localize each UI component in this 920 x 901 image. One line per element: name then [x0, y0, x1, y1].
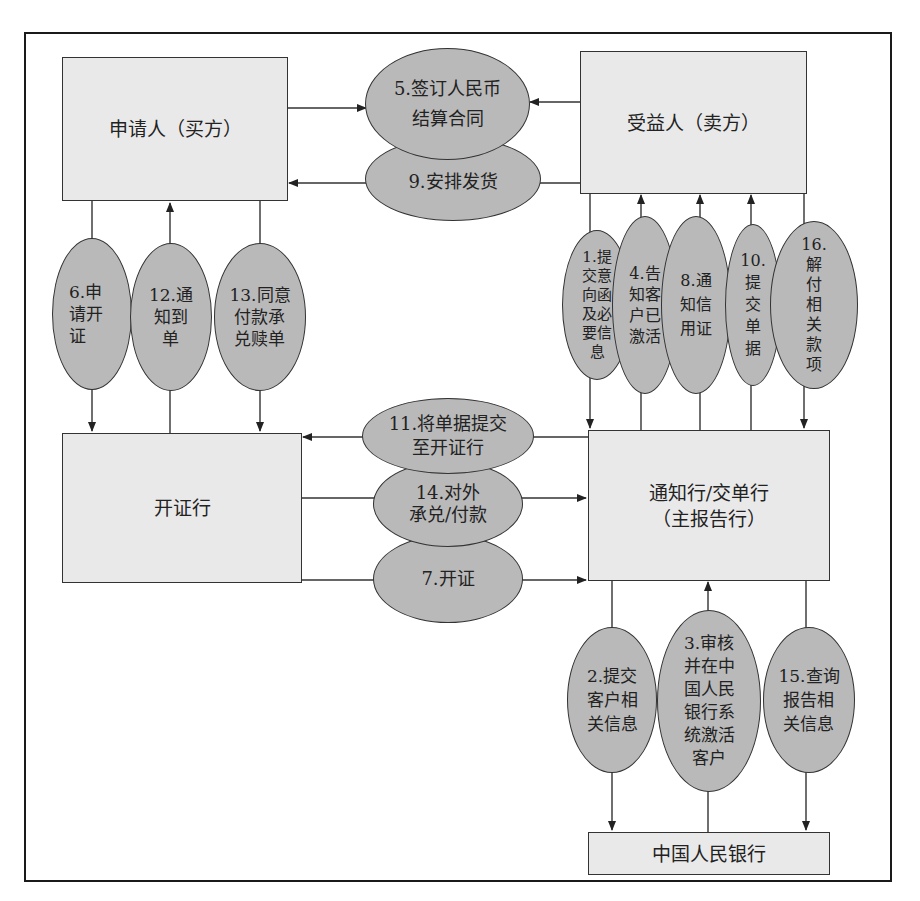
- advising-bank-box: 通知行/交单行 （主报告行）: [588, 430, 830, 581]
- step-12-label: 12.通 知到 单: [149, 284, 193, 350]
- step-2-label: 2.提交 客户相 关信息: [587, 664, 638, 736]
- applicant-label: 申请人（买方）: [109, 116, 242, 142]
- pboc-label: 中国人民银行: [652, 841, 766, 867]
- step-8-label: 8.通 知信 用证: [680, 269, 712, 341]
- step-7-label: 7.开证: [421, 568, 474, 590]
- step-16-label: 16. 解 付 相 关 款 项: [801, 235, 826, 375]
- step-5-label: 5.签订人民币 结算合同: [394, 74, 501, 134]
- step-1-label: 1.提 交意 向函 及必 要信 息: [582, 248, 612, 362]
- step-3-ellipse: 3.审核 并在中 国人民 银行系 统激活 客户: [657, 610, 761, 792]
- step-11-ellipse: 11.将单据提交 至开证行: [362, 398, 534, 474]
- advising-bank-label: 通知行/交单行 （主报告行）: [649, 480, 769, 532]
- step-15-ellipse: 15.查询 报告相 关信息: [763, 627, 855, 773]
- step-9-label: 9.安排发货: [408, 171, 497, 193]
- step-6-label: 6.申 请开 证: [69, 281, 103, 347]
- step-5-ellipse: 5.签订人民币 结算合同: [365, 48, 530, 160]
- step-11-label: 11.将单据提交 至开证行: [389, 412, 508, 460]
- step-16-ellipse: 16. 解 付 相 关 款 项: [770, 221, 858, 389]
- applicant-box: 申请人（买方）: [62, 57, 288, 201]
- step-4-label: 4.告 知客 户已 激活: [629, 263, 661, 347]
- issuing-bank-box: 开证行: [62, 433, 302, 583]
- issuing-bank-label: 开证行: [154, 495, 211, 521]
- step-13-label: 13.同意 付款承 兑赎单: [229, 284, 290, 350]
- step-14-label: 14.对外 承兑/付款: [409, 482, 487, 526]
- beneficiary-box: 受益人（卖方）: [580, 51, 807, 194]
- pboc-box: 中国人民银行: [588, 832, 830, 875]
- step-10-label: 10. 提 交 单 据: [740, 250, 765, 360]
- step-7-ellipse: 7.开证: [373, 535, 523, 623]
- beneficiary-label: 受益人（卖方）: [627, 110, 760, 136]
- step-2-ellipse: 2.提交 客户相 关信息: [567, 627, 657, 773]
- step-6-ellipse: 6.申 请开 证: [52, 238, 132, 390]
- step-3-label: 3.审核 并在中 国人民 银行系 统激活 客户: [684, 632, 735, 770]
- step-8-ellipse: 8.通 知信 用证: [661, 216, 731, 394]
- step-15-label: 15.查询 报告相 关信息: [778, 664, 839, 736]
- step-12-ellipse: 12.通 知到 单: [130, 243, 212, 391]
- step-13-ellipse: 13.同意 付款承 兑赎单: [214, 243, 306, 391]
